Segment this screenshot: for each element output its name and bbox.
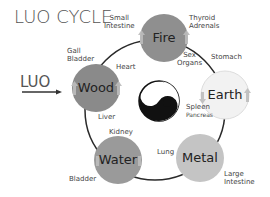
luo-cycle-diagram: LUO CYCLE LUO Fire Earth Metal Water Woo…	[0, 0, 270, 197]
label-lung: Lung	[157, 148, 174, 156]
label-large-intestine: Large Intestine	[224, 170, 255, 186]
label-small-intestine: Small Intestine	[104, 14, 135, 30]
label-liver: Liver	[98, 113, 115, 121]
element-water: Water	[88, 152, 148, 167]
element-earth: Earth	[195, 87, 255, 102]
label-gall-bladder: Gall Bladder	[67, 47, 94, 63]
diagram-title: LUO CYCLE	[14, 6, 112, 27]
label-kidney: Kidney	[109, 128, 133, 136]
element-metal: Metal	[170, 150, 230, 165]
entry-arrow-head	[56, 90, 62, 95]
label-bladder: Bladder	[69, 175, 96, 183]
luo-entry-label: LUO	[20, 73, 50, 91]
label-pancreas: Pancreas	[186, 111, 213, 119]
label-heart: Heart	[116, 63, 135, 71]
label-thyroid-adrenals: Thyroid Adrenals	[189, 14, 219, 30]
yin-yang-icon	[132, 81, 182, 128]
label-sex-organs: Sex Organs	[177, 51, 202, 67]
label-spleen: Spleen	[186, 103, 210, 111]
element-fire: Fire	[134, 30, 194, 45]
element-wood: Wood	[66, 80, 126, 95]
label-stomach: Stomach	[211, 53, 242, 61]
